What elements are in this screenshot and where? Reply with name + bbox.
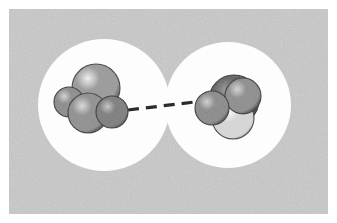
atom-right-front: [96, 96, 128, 128]
atom-upper-right: [225, 78, 261, 114]
figure-canvas: [0, 0, 337, 223]
molecular-figure: [0, 0, 337, 223]
atom-left-front: [195, 91, 229, 125]
